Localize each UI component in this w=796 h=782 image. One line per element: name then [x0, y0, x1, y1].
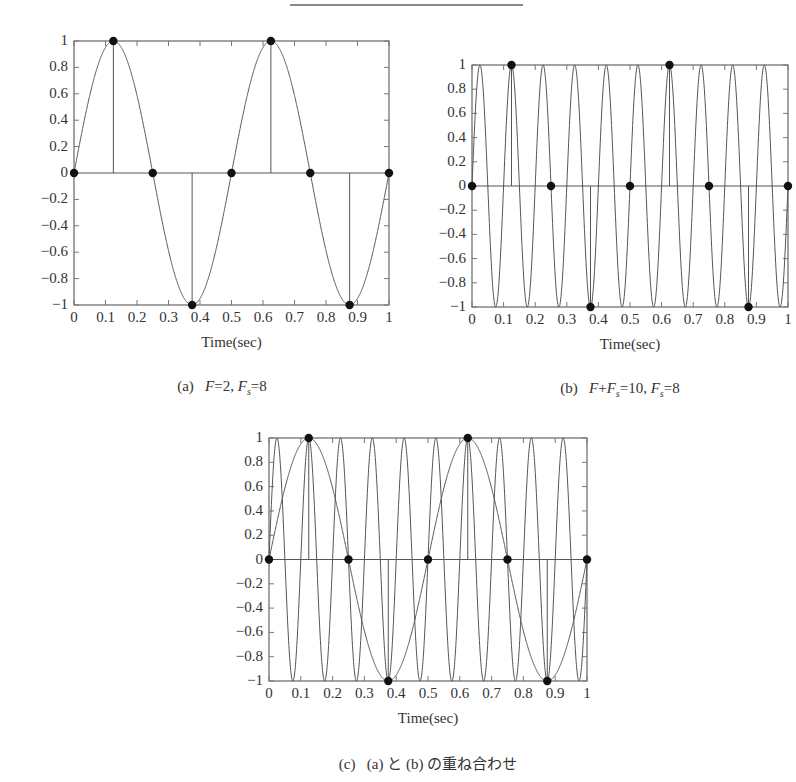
x-tick-label: 0.8 — [508, 686, 538, 701]
x-tick-label: 0.3 — [349, 686, 379, 701]
x-tick-label: 0.2 — [318, 686, 348, 701]
y-tick-label: −0.8 — [203, 649, 263, 664]
x-tick-label: 0 — [254, 686, 284, 701]
plot-c-svg — [0, 0, 796, 782]
y-tick-label: −0.6 — [203, 624, 263, 639]
sample-point — [583, 555, 591, 563]
x-tick-label: 0.1 — [286, 686, 316, 701]
y-tick-label: −0.4 — [203, 600, 263, 615]
y-tick-label: 0.6 — [203, 479, 263, 494]
figure-caption-c: (c) (a) と (b) の重ね合わせ — [339, 752, 517, 773]
y-tick-label: 0.2 — [203, 527, 263, 542]
x-axis-label: Time(sec) — [348, 710, 508, 727]
sample-point — [464, 434, 472, 442]
y-tick-label: 0.8 — [203, 454, 263, 469]
sample-point — [503, 555, 511, 563]
sample-point — [344, 555, 352, 563]
x-tick-label: 0.9 — [540, 686, 570, 701]
y-tick-label: −0.2 — [203, 576, 263, 591]
plot-c-overlay: 10.80.60.40.20−0.2−0.4−0.6−0.8−100.10.20… — [0, 0, 796, 782]
y-tick-label: 0.4 — [203, 503, 263, 518]
sample-point — [305, 434, 313, 442]
sample-point — [543, 677, 551, 685]
y-tick-label: 0 — [203, 552, 263, 567]
x-tick-label: 0.7 — [477, 686, 507, 701]
sample-point — [384, 677, 392, 685]
y-tick-label: 1 — [203, 430, 263, 445]
x-tick-label: 1 — [572, 686, 602, 701]
sample-point — [424, 555, 432, 563]
x-tick-label: 0.5 — [413, 686, 443, 701]
x-tick-label: 0.6 — [445, 686, 475, 701]
x-tick-label: 0.4 — [381, 686, 411, 701]
sample-point — [265, 555, 273, 563]
